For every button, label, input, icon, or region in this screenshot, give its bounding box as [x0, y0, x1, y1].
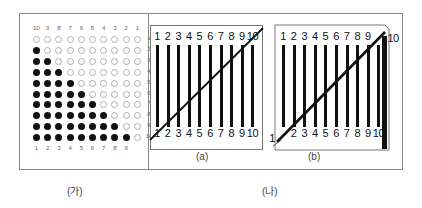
panel-b-shifted-strip: [382, 36, 387, 149]
panel-b-label-10: 10: [387, 32, 399, 44]
panel-b-caption: (b): [308, 151, 320, 162]
panel-na-caption: (나): [262, 183, 278, 198]
panel-b-diagonal-cut: [0, 0, 422, 208]
panel-b-label-1: 1: [266, 132, 278, 144]
